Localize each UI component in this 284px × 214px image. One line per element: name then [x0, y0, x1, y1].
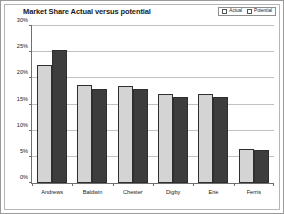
y-tick-label: 5% [20, 148, 28, 154]
legend-label-actual: Actual [229, 9, 242, 14]
bar-actual-baldwin [77, 85, 92, 183]
category-group: Andrews [32, 26, 72, 183]
x-tick-mark [234, 183, 235, 186]
category-group: Baldwin [72, 26, 112, 183]
bar-potential-chester [133, 89, 148, 183]
y-tick-label: 0% [20, 174, 28, 180]
legend-item-potential: Potential [247, 9, 272, 14]
bar-actual-digby [158, 94, 173, 183]
y-tick-label: 30% [17, 17, 28, 23]
x-axis-label-digby: Digby [166, 189, 180, 195]
x-axis-label-ferris: Ferris [247, 189, 261, 195]
x-tick-mark [193, 183, 194, 186]
x-axis-label-andrews: Andrews [41, 189, 63, 195]
bar-actual-ferris [239, 149, 254, 183]
x-tick-mark [113, 183, 114, 186]
legend-swatch-actual [222, 9, 227, 14]
y-tick-label: 20% [17, 69, 28, 75]
legend-swatch-potential [247, 9, 252, 14]
x-tick-mark [153, 183, 154, 186]
category-group: Erie [193, 26, 233, 183]
bar-potential-baldwin [92, 89, 107, 183]
category-group: Ferris [234, 26, 274, 183]
category-group: Digby [153, 26, 193, 183]
x-tick-mark [72, 183, 73, 186]
legend-item-actual: Actual [222, 9, 242, 14]
bar-actual-andrews [37, 65, 52, 183]
chart-container: Market Share Actual versus potential Act… [0, 0, 284, 214]
legend-label-potential: Potential [254, 9, 272, 14]
x-axis-label-chester: Chester [123, 189, 143, 195]
x-axis-label-baldwin: Baldwin [83, 189, 103, 195]
x-axis-label-erie: Erie [208, 189, 218, 195]
x-tick-mark [273, 183, 274, 186]
bar-potential-erie [213, 97, 228, 183]
bar-potential-digby [173, 97, 188, 183]
x-tick-mark [32, 183, 33, 186]
bar-potential-ferris [254, 150, 269, 183]
bars-layer: AndrewsBaldwinChesterDigbyErieFerris [32, 26, 274, 183]
category-group: Chester [113, 26, 153, 183]
y-tick-label: 15% [17, 96, 28, 102]
chart-legend: Actual Potential [218, 7, 276, 16]
y-tick-label: 25% [17, 43, 28, 49]
chart-title: Market Share Actual versus potential [23, 7, 151, 16]
y-tick-label: 10% [17, 122, 28, 128]
bar-potential-andrews [52, 50, 67, 183]
bar-actual-erie [198, 94, 213, 183]
bar-actual-chester [118, 86, 133, 183]
plot-area: 0%5%10%15%20%25%30% AndrewsBaldwinCheste… [31, 26, 274, 184]
